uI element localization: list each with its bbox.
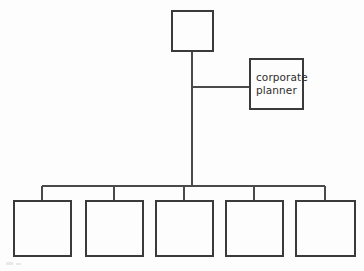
trunk-vertical-line: [191, 52, 193, 186]
subordinate-node-4[interactable]: [225, 200, 284, 257]
drop-line-subordinate-4: [253, 186, 255, 200]
subordinate-node-5[interactable]: [295, 200, 356, 257]
staff-branch-horizontal-line: [192, 86, 249, 88]
drop-line-subordinate-3: [183, 186, 185, 200]
subordinate-node-3[interactable]: [155, 200, 214, 257]
scan-artifact: [16, 263, 21, 265]
drop-line-subordinate-2: [113, 186, 115, 200]
staff-node-label: corporate planner: [251, 71, 308, 98]
subordinate-node-1[interactable]: [13, 200, 72, 257]
scan-artifact: [6, 262, 13, 265]
subordinate-node-2[interactable]: [85, 200, 144, 257]
drop-line-subordinate-1: [41, 186, 43, 200]
staff-node-corporate-planner[interactable]: corporate planner: [249, 58, 304, 110]
org-chart-canvas: corporate planner: [0, 0, 364, 271]
drop-line-subordinate-5: [324, 186, 326, 200]
top-node[interactable]: [171, 10, 214, 52]
